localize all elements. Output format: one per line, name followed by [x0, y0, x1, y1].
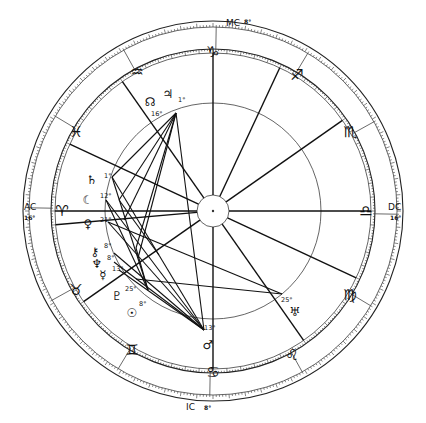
center-dot	[212, 210, 214, 212]
ic-degree: 8°	[204, 404, 211, 411]
saturn-degree: 1°	[104, 172, 111, 180]
house-cusp-line	[220, 68, 280, 197]
mc-label: MC	[226, 18, 240, 28]
virgo-sign-icon: ♍	[343, 286, 356, 304]
natal-chart: ♈♉♊♋♌♍♎♏♐♑♒♓ ♄1°☾12°♀21°⚷8°♆8°☿13°♇25°☉8…	[0, 0, 426, 423]
ic-label: IC	[186, 402, 195, 412]
jupiter-degree: 1°	[178, 96, 185, 104]
house-cusp-line	[228, 218, 357, 278]
jupiter-icon: ♃	[163, 87, 174, 101]
mc-degree: 8°	[244, 18, 251, 25]
north-node-degree: 16°	[151, 110, 163, 118]
neptune-degree: 8°	[107, 254, 114, 262]
sagittarius-sign-icon: ♐	[290, 66, 303, 84]
leo-sign-icon: ♌	[285, 346, 298, 364]
venus-icon: ♀	[84, 217, 93, 231]
libra-sign-icon: ♎	[359, 202, 372, 220]
aspect-line	[119, 200, 159, 255]
ac-label: AC	[24, 202, 36, 212]
moon-degree: 12°	[100, 192, 112, 200]
venus-degree: 21°	[100, 216, 112, 224]
north-node-icon: ☊	[145, 95, 156, 109]
saturn-icon: ♄	[87, 173, 98, 187]
aspect-line	[108, 222, 204, 330]
sign-boundary	[355, 122, 374, 133]
aspect-line	[176, 113, 204, 330]
aries-sign-icon: ♈	[55, 202, 68, 220]
house-cusp-line	[226, 120, 342, 201]
mars-degree: 13°	[204, 324, 216, 332]
aquarius-sign-icon: ♒	[130, 63, 143, 81]
aspect-line	[136, 279, 282, 294]
house-cusp-line	[222, 224, 303, 340]
sun-icon: ☉	[127, 306, 138, 320]
dc-degree: 16°	[390, 214, 401, 221]
aspect-line	[119, 270, 204, 330]
aspect-line	[119, 113, 176, 200]
aspect-line	[108, 222, 282, 294]
mars-icon: ♂	[203, 338, 214, 352]
gemini-sign-icon: ♊	[125, 341, 138, 359]
chiron-degree: 8°	[104, 242, 111, 250]
aspect-line	[124, 113, 176, 220]
ac-degree: 16°	[24, 214, 35, 221]
pluto-degree: 25°	[125, 285, 137, 293]
mercury-icon: ☿	[99, 268, 106, 282]
uranus-degree: 25°	[281, 296, 293, 304]
scorpio-sign-icon: ♏	[343, 123, 357, 141]
pisces-sign-icon: ♓	[69, 123, 82, 141]
sun-degree: 8°	[139, 300, 146, 308]
capricorn-sign-icon: ♑	[206, 43, 219, 61]
mercury-degree: 13°	[112, 265, 124, 273]
cancer-sign-icon: ♋	[206, 363, 219, 381]
moon-icon: ☾	[83, 193, 94, 207]
aspect-lines	[106, 113, 282, 330]
dc-label: DC	[388, 202, 401, 212]
taurus-sign-icon: ♉	[69, 281, 82, 299]
uranus-icon: ♅	[290, 305, 301, 319]
pluto-icon: ♇	[112, 289, 123, 303]
